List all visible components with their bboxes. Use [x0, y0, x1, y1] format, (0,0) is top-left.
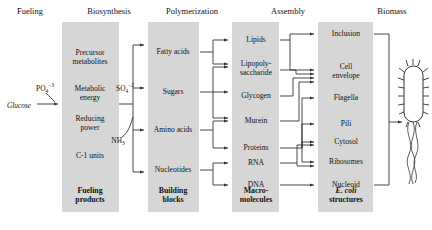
- diagram-canvas: Fueling Biosynthesis Polymerization Asse…: [0, 0, 432, 230]
- ecoli-cell-illustration: [0, 0, 432, 230]
- cell-body: [398, 59, 429, 184]
